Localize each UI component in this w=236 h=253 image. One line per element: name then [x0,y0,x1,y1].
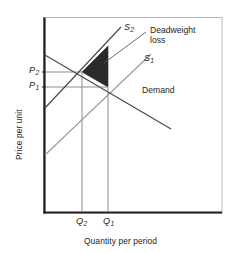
plot-canvas [0,0,236,253]
curve-label-s1: S1 [144,54,154,63]
y-axis-title: Price per unit [15,109,23,160]
deadweight-loss-callout-line2: loss [150,35,195,45]
price-label-p1-subscript: 1 [35,84,39,91]
curve-label-s2-subscript: 2 [130,26,134,33]
price-label-p2-subscript: 2 [35,69,39,76]
deadweight-loss-callout: Deadweight loss [150,25,195,45]
curve-label-s2: S2 [124,23,134,32]
deadweight-loss-callout-line1: Deadweight [150,25,195,35]
curve-label-s1-subscript: 1 [150,57,154,64]
x-axis-title: Quantity per period [84,237,157,245]
quantity-label-q2: Q2 [76,217,87,226]
quantity-label-q2-subscript: 2 [83,220,87,227]
economics-supply-demand-figure: Price per unit Quantity per period P2 P1… [0,0,236,253]
quantity-label-q1: Q1 [103,217,114,226]
plot-frame [44,18,223,214]
curve-label-demand: Demand [142,85,174,95]
price-label-p2: P2 [29,66,39,75]
quantity-label-q1-subscript: 1 [110,220,114,227]
price-label-p1: P1 [29,81,39,90]
